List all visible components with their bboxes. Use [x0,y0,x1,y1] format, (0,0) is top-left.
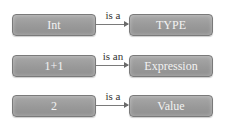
relation-label: is an [96,50,130,62]
relation-row-int-type: Int is a TYPE [0,10,225,38]
relation-row-expression: 1+1 is an Expression [0,51,225,79]
relation-row-value: 2 is a Value [0,91,225,119]
arrow-icon [96,24,128,25]
node-1plus1: 1+1 [12,55,96,77]
node-2: 2 [12,95,96,117]
relation-label: is a [96,90,130,102]
node-type: TYPE [129,14,213,36]
arrow-icon [96,105,128,106]
arrow-icon [96,65,128,66]
relation-label: is a [96,9,130,21]
node-value: Value [129,95,213,117]
node-expression: Expression [129,55,213,77]
node-int: Int [12,14,96,36]
